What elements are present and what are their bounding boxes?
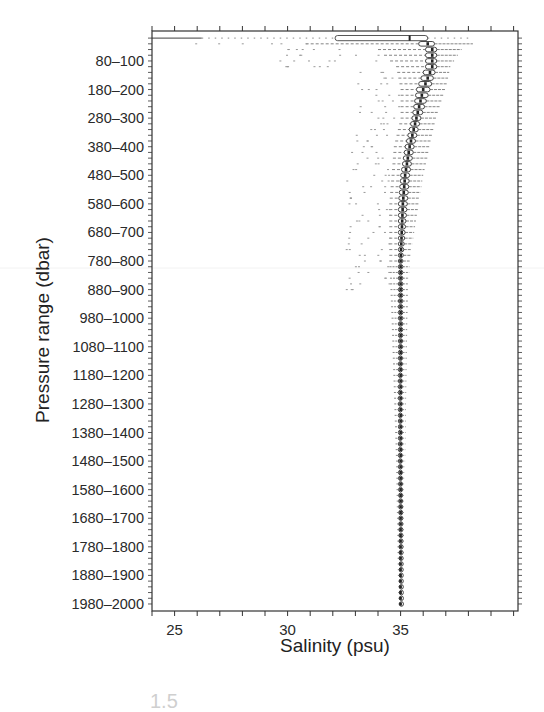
box-row — [375, 93, 444, 98]
box-row — [152, 36, 468, 41]
box-row — [397, 510, 404, 515]
box-row — [398, 550, 404, 555]
box-row — [350, 224, 415, 229]
box-row — [357, 162, 426, 167]
y-tick-label: 1080–1100 — [72, 339, 144, 355]
box-row — [349, 230, 414, 235]
box-row — [398, 573, 403, 578]
y-axis-title: Pressure range (dbar) — [32, 237, 53, 423]
box-row — [394, 390, 406, 395]
box-row — [364, 259, 410, 264]
box-row — [395, 424, 406, 429]
box-row — [398, 585, 403, 590]
box-row — [397, 499, 405, 504]
box-row — [396, 459, 405, 464]
box-row — [394, 407, 405, 412]
y-tick-label: 80–100 — [96, 53, 144, 69]
box-row — [396, 470, 405, 475]
box-row — [393, 373, 406, 378]
box-row — [395, 413, 406, 418]
box-row — [397, 522, 404, 527]
box-row — [348, 242, 413, 247]
box-row — [393, 362, 407, 367]
box-row — [397, 545, 403, 550]
box-row — [360, 70, 450, 75]
box-row — [394, 379, 407, 384]
box-row — [395, 430, 405, 435]
x-axis-ticks: 253035 — [152, 26, 514, 638]
box-row — [359, 253, 411, 258]
box-row — [398, 602, 403, 607]
box-row — [392, 327, 407, 332]
box-row — [349, 276, 409, 281]
box-row — [397, 487, 405, 492]
x-axis-title: Salinity (psu) — [280, 635, 390, 656]
box-row — [391, 310, 407, 315]
box-row — [396, 453, 405, 458]
y-axis-ticks: 80–100180–200280–300380–400480–500580–60… — [71, 38, 522, 612]
box-row — [346, 287, 409, 292]
box-row — [351, 150, 429, 155]
plot-area — [152, 36, 473, 607]
y-tick-label: 1380–1400 — [71, 425, 144, 441]
y-tick-label: 580–600 — [88, 196, 144, 212]
y-tick-label: 380–400 — [88, 139, 144, 155]
box-row — [398, 590, 403, 595]
box-row — [356, 139, 431, 144]
box-row — [391, 304, 408, 309]
y-tick-label: 980–1000 — [79, 310, 144, 326]
box-row — [398, 579, 403, 584]
box-row — [353, 167, 425, 172]
box-row — [349, 190, 421, 195]
box-row — [398, 596, 403, 601]
y-tick-label: 1180–1200 — [72, 367, 144, 383]
box-row — [392, 322, 408, 327]
box-row — [393, 350, 407, 355]
box-row — [394, 402, 406, 407]
box-row — [350, 196, 420, 201]
box-row — [396, 476, 404, 481]
box-row — [373, 173, 423, 178]
box-row — [195, 42, 473, 47]
box-row — [395, 436, 405, 441]
box-row — [346, 247, 412, 252]
box-row — [348, 202, 418, 207]
y-tick-label: 1880–1900 — [71, 567, 144, 583]
box-row — [394, 396, 406, 401]
y-tick-label: 680–700 — [88, 224, 144, 240]
y-tick-label: 1980–2000 — [71, 596, 144, 612]
box-row — [363, 144, 430, 149]
y-tick-label: 1480–1500 — [71, 453, 144, 469]
box-row — [356, 133, 433, 138]
box-row — [396, 465, 405, 470]
box-row — [346, 179, 422, 184]
box-row — [348, 236, 413, 241]
box-row — [398, 567, 404, 572]
box-row — [395, 419, 406, 424]
box-row — [394, 384, 407, 389]
box-row — [359, 110, 439, 115]
box-row — [398, 556, 404, 561]
box-row — [398, 562, 404, 567]
box-row — [361, 87, 446, 92]
box-row — [362, 213, 417, 218]
box-row — [397, 527, 404, 532]
box-row — [370, 127, 434, 132]
box-row — [360, 104, 441, 109]
box-row — [357, 82, 447, 87]
box-row — [286, 53, 458, 58]
box-row — [396, 442, 406, 447]
box-row — [392, 339, 407, 344]
box-row — [378, 99, 442, 104]
box-row — [397, 533, 404, 538]
box-row — [392, 333, 407, 338]
y-tick-label: 480–500 — [88, 167, 144, 183]
y-tick-label: 880–900 — [88, 282, 144, 298]
y-tick-label: 1680–1700 — [71, 510, 144, 526]
box-row — [397, 493, 405, 498]
box-row — [279, 59, 454, 64]
box-row — [287, 47, 461, 52]
x-tick-label: 25 — [166, 621, 183, 638]
box-row — [397, 516, 404, 521]
